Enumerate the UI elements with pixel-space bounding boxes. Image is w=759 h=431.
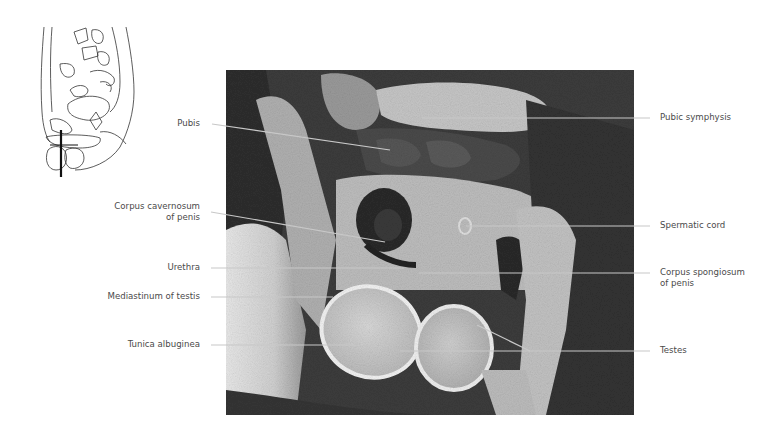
label-spermatic-cord-text: Spermatic cord: [660, 220, 725, 230]
label-corpus-cavernosum-line2: of penis: [114, 212, 200, 223]
orientation-diagram: [30, 12, 140, 177]
label-pubic-symphysis-text: Pubic symphysis: [660, 112, 731, 122]
label-tunica-albuginea-text: Tunica albuginea: [128, 339, 200, 349]
label-tunica-albuginea: Tunica albuginea: [128, 339, 200, 350]
label-pubis: Pubis: [177, 118, 200, 129]
label-corpus-cavernosum-line1: Corpus cavernosum: [114, 201, 200, 212]
label-mediastinum-testis-text: Mediastinum of testis: [108, 291, 200, 301]
label-corpus-spongiosum: Corpus spongiosum of penis: [660, 267, 745, 289]
label-urethra: Urethra: [167, 262, 200, 273]
label-corpus-cavernosum: Corpus cavernosum of penis: [114, 201, 200, 223]
label-testes-text: Testes: [660, 345, 687, 355]
label-spermatic-cord: Spermatic cord: [660, 220, 725, 231]
label-corpus-spongiosum-line1: Corpus spongiosum: [660, 267, 745, 278]
anatomy-figure: Pubis Corpus cavernosum of penis Urethra…: [0, 0, 759, 431]
label-mediastinum-testis: Mediastinum of testis: [108, 291, 200, 302]
label-urethra-text: Urethra: [167, 262, 200, 272]
label-testes: Testes: [660, 345, 687, 356]
label-pubic-symphysis: Pubic symphysis: [660, 112, 731, 123]
label-corpus-spongiosum-line2: of penis: [660, 278, 745, 289]
label-pubis-text: Pubis: [177, 118, 200, 128]
mri-image: [226, 70, 634, 415]
